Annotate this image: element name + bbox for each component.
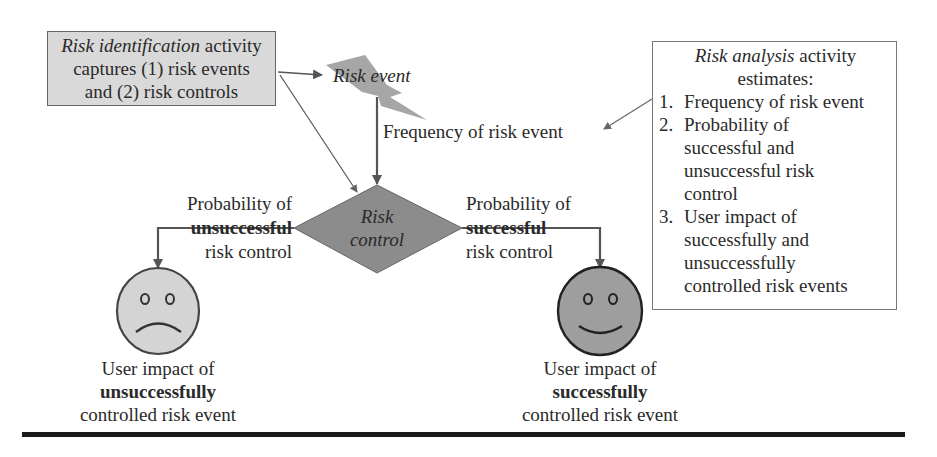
- analysis-title: Risk analysis activity: [659, 44, 892, 67]
- arrow-id-to-event: [278, 72, 322, 75]
- risk-control-label: Risk control: [327, 205, 427, 251]
- analysis-item-3: 3. User impact of successfully and unsuc…: [659, 205, 892, 297]
- risk-analysis-box: Risk analysis activity estimates: 1. Fre…: [652, 41, 897, 310]
- analysis-item-1: 1. Frequency of risk event: [659, 90, 892, 113]
- analysis-title-line-2: estimates:: [659, 67, 892, 90]
- arrow-analysis-to-frequency: [604, 99, 652, 129]
- id-box-line-1: Risk identification activity: [48, 34, 275, 57]
- bottom-rule-divider: [22, 432, 905, 437]
- successful-probability-label: Probability of successful risk control: [466, 192, 626, 264]
- id-box-line-2: captures (1) risk events: [48, 57, 275, 80]
- risk-identification-box: Risk identification activity captures (1…: [47, 31, 276, 106]
- arrow-id-to-control: [280, 75, 357, 192]
- analysis-item-2: 2. Probability of successful and unsucce…: [659, 113, 892, 205]
- unsuccessful-impact-label: User impact of unsuccessfully controlled…: [48, 357, 268, 426]
- successful-impact-label: User impact of successfully controlled r…: [490, 357, 710, 426]
- frequency-label: Frequency of risk event: [383, 120, 563, 143]
- happy-face-icon: [558, 267, 642, 355]
- analysis-list: 1. Frequency of risk event 2. Probabilit…: [659, 90, 892, 297]
- unsuccessful-probability-label: Probability of unsuccessful risk control: [140, 192, 292, 264]
- sad-face-icon: [117, 268, 199, 354]
- id-box-line-3: and (2) risk controls: [48, 80, 275, 103]
- risk-event-label: Risk event: [333, 64, 411, 87]
